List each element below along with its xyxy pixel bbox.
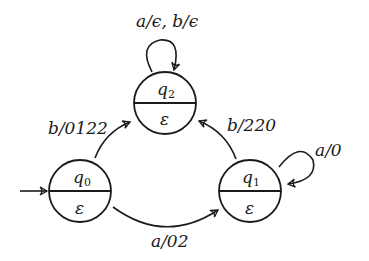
state-q2: q2 ε — [134, 72, 196, 134]
edge-q1-self — [279, 151, 314, 184]
edge-label-q1-self: a/0 — [315, 140, 342, 160]
svg-text:q1: q1 — [242, 167, 260, 189]
state-q1: q1 ε — [219, 160, 281, 222]
edge-label-q0-q2: b/0122 — [48, 118, 108, 138]
state-q0: q0 ε — [49, 160, 111, 222]
edge-label-q2-self: a/ϵ, b/ϵ — [136, 11, 199, 31]
state-q1-output: ε — [245, 198, 254, 218]
edge-label-q0-q1: a/02 — [151, 231, 189, 251]
edge-q2-self — [147, 40, 177, 72]
state-q0-output: ε — [75, 198, 84, 218]
state-diagram: q2 ε q0 ε q1 ε b/0122 a/02 b/220 a/0 a/ϵ… — [0, 0, 369, 261]
svg-text:q2: q2 — [157, 79, 175, 101]
edge-q0-q1 — [113, 207, 218, 227]
state-q2-output: ε — [160, 109, 169, 129]
edge-label-q1-q2: b/220 — [227, 115, 276, 135]
svg-text:q0: q0 — [73, 167, 91, 189]
